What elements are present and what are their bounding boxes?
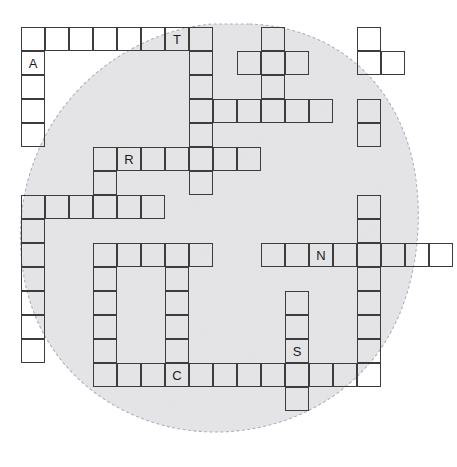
- crossword-cell-r11-c14[interactable]: [357, 291, 381, 315]
- crossword-cell-r9-c6[interactable]: [165, 243, 189, 267]
- crossword-cell-r0-c5[interactable]: [141, 27, 165, 51]
- crossword-cell-r0-c4[interactable]: [117, 27, 141, 51]
- crossword-grid[interactable]: TARNSC: [0, 0, 457, 467]
- crossword-cell-r3-c0[interactable]: [21, 99, 45, 123]
- crossword-cell-r14-c13[interactable]: [333, 363, 357, 387]
- crossword-cell-r3-c9[interactable]: [237, 99, 261, 123]
- crossword-cell-r14-c9[interactable]: [237, 363, 261, 387]
- crossword-cell-r13-c6[interactable]: [165, 339, 189, 363]
- crossword-cell-r5-c6[interactable]: [165, 147, 189, 171]
- crossword-cell-r14-c8[interactable]: [213, 363, 237, 387]
- crossword-cell-r14-c7[interactable]: [189, 363, 213, 387]
- crossword-cell-r9-c11[interactable]: [285, 243, 309, 267]
- crossword-cell-r11-c3[interactable]: [93, 291, 117, 315]
- crossword-cell-r9-c12[interactable]: N: [309, 243, 333, 267]
- crossword-cell-r10-c0[interactable]: [21, 267, 45, 291]
- crossword-cell-r9-c14[interactable]: [357, 243, 381, 267]
- crossword-cell-r1-c11[interactable]: [285, 51, 309, 75]
- crossword-cell-r2-c10[interactable]: [261, 75, 285, 99]
- cell-letter: C: [172, 369, 181, 382]
- crossword-cell-r13-c3[interactable]: [93, 339, 117, 363]
- crossword-cell-r1-c10[interactable]: [261, 51, 285, 75]
- crossword-cell-r7-c5[interactable]: [141, 195, 165, 219]
- crossword-cell-r14-c14[interactable]: [357, 363, 381, 387]
- crossword-cell-r5-c3[interactable]: [93, 147, 117, 171]
- crossword-cell-r4-c7[interactable]: [189, 123, 213, 147]
- crossword-cell-r3-c7[interactable]: [189, 99, 213, 123]
- crossword-cell-r9-c0[interactable]: [21, 243, 45, 267]
- crossword-cell-r4-c14[interactable]: [357, 123, 381, 147]
- crossword-cell-r11-c11[interactable]: [285, 291, 309, 315]
- crossword-cell-r11-c6[interactable]: [165, 291, 189, 315]
- crossword-cell-r10-c14[interactable]: [357, 267, 381, 291]
- crossword-cell-r9-c3[interactable]: [93, 243, 117, 267]
- crossword-cell-r2-c7[interactable]: [189, 75, 213, 99]
- crossword-cell-r3-c11[interactable]: [285, 99, 309, 123]
- crossword-cell-r6-c7[interactable]: [189, 171, 213, 195]
- crossword-cell-r0-c3[interactable]: [93, 27, 117, 51]
- crossword-cell-r14-c4[interactable]: [117, 363, 141, 387]
- cell-letter: N: [316, 249, 325, 262]
- crossword-cell-r8-c0[interactable]: [21, 219, 45, 243]
- crossword-cell-r1-c7[interactable]: [189, 51, 213, 75]
- crossword-cell-r5-c9[interactable]: [237, 147, 261, 171]
- crossword-cell-r4-c0[interactable]: [21, 123, 45, 147]
- crossword-cell-r3-c14[interactable]: [357, 99, 381, 123]
- crossword-cell-r5-c8[interactable]: [213, 147, 237, 171]
- crossword-cell-r3-c10[interactable]: [261, 99, 285, 123]
- crossword-cell-r1-c14[interactable]: [357, 51, 381, 75]
- crossword-puzzle: TARNSC: [0, 0, 457, 467]
- crossword-cell-r9-c15[interactable]: [381, 243, 405, 267]
- crossword-cell-r6-c3[interactable]: [93, 171, 117, 195]
- crossword-cell-r3-c12[interactable]: [309, 99, 333, 123]
- crossword-cell-r12-c11[interactable]: [285, 315, 309, 339]
- crossword-cell-r9-c7[interactable]: [189, 243, 213, 267]
- crossword-cell-r0-c10[interactable]: [261, 27, 285, 51]
- crossword-cell-r14-c5[interactable]: [141, 363, 165, 387]
- crossword-cell-r12-c6[interactable]: [165, 315, 189, 339]
- crossword-cell-r3-c8[interactable]: [213, 99, 237, 123]
- crossword-cell-r14-c6[interactable]: C: [165, 363, 189, 387]
- crossword-cell-r13-c11[interactable]: S: [285, 339, 309, 363]
- crossword-cell-r7-c3[interactable]: [93, 195, 117, 219]
- crossword-cell-r1-c0[interactable]: A: [21, 51, 45, 75]
- crossword-cell-r11-c0[interactable]: [21, 291, 45, 315]
- crossword-cell-r7-c0[interactable]: [21, 195, 45, 219]
- crossword-cell-r5-c4[interactable]: R: [117, 147, 141, 171]
- crossword-cell-r1-c15[interactable]: [381, 51, 405, 75]
- crossword-cell-r0-c1[interactable]: [45, 27, 69, 51]
- crossword-cell-r0-c0[interactable]: [21, 27, 45, 51]
- crossword-cell-r12-c14[interactable]: [357, 315, 381, 339]
- crossword-cell-r15-c11[interactable]: [285, 387, 309, 411]
- crossword-cell-r9-c17[interactable]: [429, 243, 453, 267]
- crossword-cell-r0-c14[interactable]: [357, 27, 381, 51]
- crossword-cell-r9-c5[interactable]: [141, 243, 165, 267]
- crossword-cell-r13-c14[interactable]: [357, 339, 381, 363]
- crossword-cell-r0-c2[interactable]: [69, 27, 93, 51]
- crossword-cell-r8-c14[interactable]: [357, 219, 381, 243]
- cell-letter: T: [173, 33, 181, 46]
- crossword-cell-r0-c6[interactable]: T: [165, 27, 189, 51]
- crossword-cell-r9-c16[interactable]: [405, 243, 429, 267]
- crossword-cell-r7-c14[interactable]: [357, 195, 381, 219]
- crossword-cell-r14-c12[interactable]: [309, 363, 333, 387]
- crossword-cell-r2-c0[interactable]: [21, 75, 45, 99]
- crossword-cell-r14-c10[interactable]: [261, 363, 285, 387]
- crossword-cell-r9-c13[interactable]: [333, 243, 357, 267]
- crossword-cell-r5-c7[interactable]: [189, 147, 213, 171]
- crossword-cell-r7-c4[interactable]: [117, 195, 141, 219]
- crossword-cell-r12-c0[interactable]: [21, 315, 45, 339]
- crossword-cell-r7-c1[interactable]: [45, 195, 69, 219]
- crossword-cell-r0-c7[interactable]: [189, 27, 213, 51]
- crossword-cell-r7-c2[interactable]: [69, 195, 93, 219]
- crossword-cell-r14-c3[interactable]: [93, 363, 117, 387]
- crossword-cell-r10-c3[interactable]: [93, 267, 117, 291]
- crossword-cell-r13-c0[interactable]: [21, 339, 45, 363]
- crossword-cell-r9-c10[interactable]: [261, 243, 285, 267]
- crossword-cell-r9-c4[interactable]: [117, 243, 141, 267]
- crossword-cell-r12-c3[interactable]: [93, 315, 117, 339]
- crossword-cell-r10-c6[interactable]: [165, 267, 189, 291]
- crossword-cell-r5-c5[interactable]: [141, 147, 165, 171]
- crossword-cell-r14-c11[interactable]: [285, 363, 309, 387]
- crossword-cell-r1-c9[interactable]: [237, 51, 261, 75]
